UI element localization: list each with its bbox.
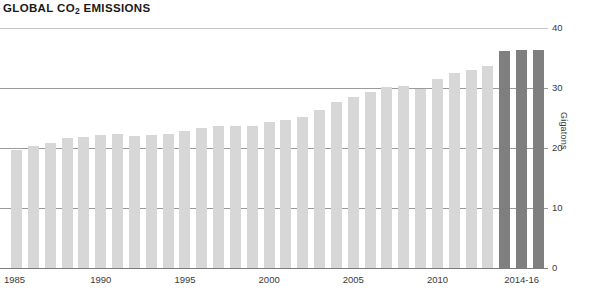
bar xyxy=(179,131,190,268)
bar xyxy=(381,87,392,268)
page-title: GLOBAL CO2 EMISSIONS xyxy=(3,1,150,18)
x-tick-label: 2000 xyxy=(259,274,280,286)
bar xyxy=(516,50,527,268)
bar xyxy=(482,66,493,268)
bar xyxy=(415,89,426,268)
bar xyxy=(163,134,174,268)
bar xyxy=(398,86,409,268)
bar xyxy=(280,120,291,268)
bar xyxy=(146,135,157,268)
bar xyxy=(112,134,123,268)
bar xyxy=(499,51,510,268)
bar xyxy=(129,136,140,268)
chart-figure: GLOBAL CO2 EMISSIONS 010203040 Gigatons … xyxy=(0,0,595,301)
bar xyxy=(297,117,308,268)
bar xyxy=(213,126,224,268)
bar xyxy=(78,137,89,268)
y-tick-label: 0 xyxy=(552,263,557,273)
bar xyxy=(230,126,241,268)
bar-series xyxy=(0,28,548,268)
bar xyxy=(62,138,73,268)
bar xyxy=(331,102,342,268)
bar xyxy=(348,97,359,268)
y-tick-label: 10 xyxy=(552,203,563,213)
y-axis-title: Gigatons xyxy=(559,112,569,150)
bar xyxy=(466,70,477,268)
bar xyxy=(449,73,460,268)
x-tick-label: 2014-16 xyxy=(504,274,539,286)
x-tick-label: 2010 xyxy=(427,274,448,286)
y-tick-label: 30 xyxy=(552,83,563,93)
gridline-0 xyxy=(0,268,548,269)
x-axis: 1985199019952000200520102014-16 xyxy=(0,274,560,290)
bar xyxy=(365,92,376,268)
bar xyxy=(264,122,275,268)
plot-area xyxy=(0,28,548,268)
bar xyxy=(432,79,443,268)
x-tick-label: 2005 xyxy=(343,274,364,286)
bar xyxy=(45,143,56,268)
bar xyxy=(28,146,39,268)
title-main: GLOBAL CO xyxy=(3,2,75,14)
x-tick-label: 1990 xyxy=(90,274,111,286)
bar xyxy=(314,110,325,268)
bar xyxy=(533,50,544,268)
x-tick-label: 1985 xyxy=(4,274,25,286)
bar xyxy=(95,135,106,268)
x-tick-label: 1995 xyxy=(174,274,195,286)
bar xyxy=(11,150,22,268)
y-tick-label: 40 xyxy=(552,23,563,33)
bar xyxy=(196,128,207,268)
bar xyxy=(247,126,258,268)
title-tail: EMISSIONS xyxy=(80,2,151,14)
